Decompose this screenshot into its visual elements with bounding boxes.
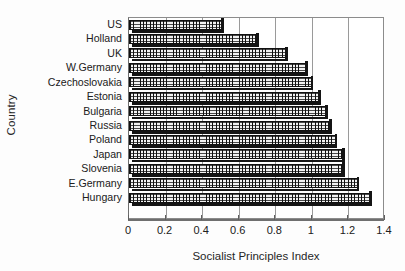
bar	[129, 92, 319, 102]
bar-row	[129, 47, 384, 61]
bar-row	[129, 162, 384, 176]
x-axis-tick-label: 1	[308, 224, 314, 236]
bar-row	[129, 90, 384, 104]
x-axis-tick	[238, 215, 239, 220]
bar-row	[129, 148, 384, 162]
y-axis-tick-label: E.Germany	[18, 176, 126, 190]
y-axis-tick-label: Holland	[18, 31, 126, 45]
y-axis-tick-labels: USHollandUKW.GermanyCzechoslovakiaEstoni…	[18, 17, 126, 219]
bar	[129, 63, 306, 73]
y-axis-tick-label: Japan	[18, 147, 126, 161]
y-axis-tick-label: US	[18, 17, 126, 31]
bar-row	[129, 105, 384, 119]
bar	[129, 48, 286, 58]
bar	[129, 164, 343, 174]
bar-chart-figure: Country USHollandUKW.GermanyCzechoslovak…	[0, 0, 405, 271]
y-axis-tick-label: Russia	[18, 118, 126, 132]
bar-row	[129, 76, 384, 90]
plot-area	[128, 17, 384, 219]
bar-row	[129, 61, 384, 75]
y-axis-tick-label: Poland	[18, 132, 126, 146]
x-axis: 00.20.40.60.811.21.4	[128, 219, 384, 220]
x-axis-tick	[311, 215, 312, 220]
bar	[129, 34, 257, 44]
x-axis-tick-label: 0.8	[267, 224, 282, 236]
bar	[129, 135, 336, 145]
bar	[129, 77, 312, 87]
bar	[129, 149, 343, 159]
x-axis-tick-label: 1.4	[376, 224, 391, 236]
x-axis-tick-label: 0.4	[193, 224, 208, 236]
y-axis-tick-label: Hungary	[18, 190, 126, 204]
x-axis-tick	[128, 215, 129, 220]
y-axis-title: Country	[5, 95, 17, 136]
bar	[129, 121, 330, 131]
bar-series	[129, 18, 383, 218]
bar-row	[129, 133, 384, 147]
bar	[129, 178, 358, 188]
y-axis-tick-label: Czechoslovakia	[18, 75, 126, 89]
x-axis-tick-label: 0.2	[157, 224, 172, 236]
x-axis-tick	[347, 215, 348, 220]
x-axis-tick	[274, 215, 275, 220]
x-axis-tick	[201, 215, 202, 220]
x-axis-line	[128, 219, 384, 221]
x-axis-title: Socialist Principles Index	[128, 250, 384, 262]
x-axis-tick-label: 0.6	[230, 224, 245, 236]
bar-row	[129, 119, 384, 133]
bar	[129, 20, 222, 30]
y-axis-tick-label: UK	[18, 46, 126, 60]
y-axis-tick-label: Bulgaria	[18, 104, 126, 118]
x-axis-tick	[384, 215, 385, 220]
y-axis-tick-label: Slovenia	[18, 161, 126, 175]
x-axis-tick	[165, 215, 166, 220]
bar-row	[129, 32, 384, 46]
bar-row	[129, 18, 384, 32]
bar	[129, 106, 326, 116]
x-axis-tick-label: 0	[125, 224, 131, 236]
x-axis-tick-label: 1.2	[340, 224, 355, 236]
bar-row	[129, 177, 384, 191]
y-axis-tick-label: W.Germany	[18, 60, 126, 74]
bar	[129, 193, 370, 203]
bar-row	[129, 191, 384, 205]
y-axis-tick-label: Estonia	[18, 89, 126, 103]
